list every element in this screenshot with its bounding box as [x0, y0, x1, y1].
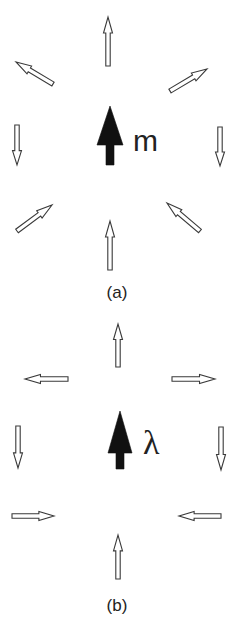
lower-left-arrow-right-icon — [12, 512, 54, 521]
right-arrow-right-icon — [172, 375, 215, 384]
symbol-m: m — [133, 124, 158, 157]
field-arrow-diagram: m (a) λ (b) — [0, 0, 246, 635]
lower-right-arrow-left-icon — [179, 512, 221, 521]
bottom-arrow-up-icon — [106, 221, 115, 270]
left-arrow-left-icon — [25, 375, 68, 384]
magnetic-moment-arrow-icon — [97, 106, 123, 165]
left-arrow-down-icon — [13, 125, 22, 165]
symbol-lambda: λ — [143, 424, 160, 461]
caption-a: (a) — [107, 283, 128, 302]
top-arrow-up-icon — [114, 324, 123, 367]
bottom-arrow-up-icon — [114, 535, 123, 579]
right-arrow-down-icon — [216, 127, 225, 166]
left-arrow-down-icon — [14, 426, 23, 468]
lower-right-arrow-icon — [167, 203, 201, 233]
caption-b: (b) — [107, 596, 128, 615]
panel-a: m (a) — [13, 17, 225, 302]
top-arrow-up-icon — [104, 17, 113, 66]
right-arrow-down-icon — [217, 427, 226, 470]
upper-right-arrow-icon — [169, 69, 207, 93]
lambda-vector-arrow-icon — [108, 411, 132, 469]
upper-left-arrow-icon — [16, 62, 54, 86]
panel-b: λ (b) — [12, 324, 226, 615]
lower-left-arrow-icon — [16, 205, 52, 233]
